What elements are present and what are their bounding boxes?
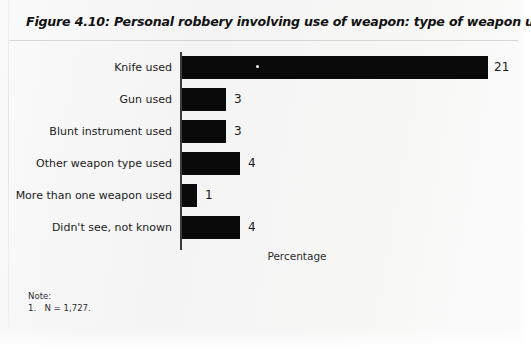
x-axis-caption: Percentage: [182, 250, 412, 262]
category-label: Knife used: [0, 52, 172, 83]
bar-value-label: 4: [248, 212, 256, 243]
category-label: More than one weapon used: [0, 180, 172, 211]
bar-row: Blunt instrument used 3: [0, 116, 531, 147]
bar-more-than-one-weapon-used: [182, 184, 197, 207]
bar-row: More than one weapon used 1: [0, 180, 531, 211]
footnote-heading: Note:: [28, 291, 91, 303]
asterisk-marker-icon: [256, 65, 259, 68]
bar-row: Knife used 21: [0, 52, 531, 83]
figure-title: Figure 4.10: Personal robbery involving …: [26, 14, 506, 29]
value-axis-line: [180, 52, 182, 250]
bar-row: Didn't see, not known 4: [0, 212, 531, 243]
page-edge-bottom-shadow: [0, 332, 531, 354]
bar-row: Gun used 3: [0, 84, 531, 115]
title-divider: [10, 40, 518, 41]
bar-value-label: 21: [494, 52, 509, 83]
figure-footnote: Note: 1. N = 1,727.: [28, 291, 91, 314]
category-label: Gun used: [0, 84, 172, 115]
bar-value-label: 3: [234, 84, 242, 115]
bar-knife-used: [182, 56, 488, 79]
bar-value-label: 1: [205, 180, 213, 211]
category-label: Other weapon type used: [0, 148, 172, 179]
bar-gun-used: [182, 88, 226, 111]
figure-sheet: Figure 4.10: Personal robbery involving …: [0, 0, 531, 354]
bar-value-label: 3: [234, 116, 242, 147]
bar-chart-plot-area: Knife used 21 Gun used 3 Blunt instrumen…: [0, 52, 531, 277]
bar-row: Other weapon type used 4: [0, 148, 531, 179]
bar-didnt-see-not-known: [182, 216, 240, 239]
bar-value-label: 4: [248, 148, 256, 179]
category-label: Didn't see, not known: [0, 212, 172, 243]
bar-blunt-instrument-used: [182, 120, 226, 143]
bar-other-weapon-type-used: [182, 152, 240, 175]
footnote-item: 1. N = 1,727.: [28, 303, 91, 315]
category-label: Blunt instrument used: [0, 116, 172, 147]
